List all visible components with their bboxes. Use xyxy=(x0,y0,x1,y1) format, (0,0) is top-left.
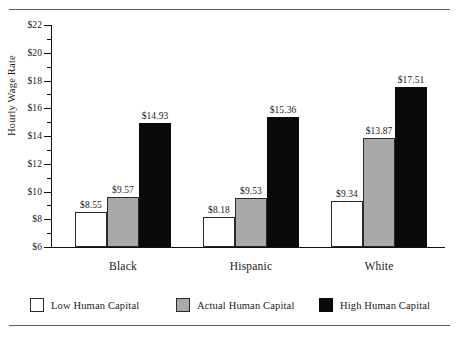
bar-value-label: $8.55 xyxy=(80,200,102,210)
bar-white-high: $17.51 xyxy=(395,87,427,247)
group-label-hispanic: Hispanic xyxy=(230,260,272,272)
legend-swatch-low xyxy=(30,298,44,312)
group-label-black: Black xyxy=(109,260,137,272)
y-tick-19 xyxy=(47,67,51,68)
legend-swatch-high xyxy=(319,298,333,312)
y-tick-16 xyxy=(44,108,51,109)
y-tick-21 xyxy=(47,39,51,40)
y-tick-label-22: $22 xyxy=(27,20,42,30)
legend-item-high[interactable]: High Human Capital xyxy=(319,298,430,312)
bar-value-label: $8.18 xyxy=(208,205,230,215)
y-tick-8 xyxy=(44,219,51,220)
y-tick-label-6: $6 xyxy=(32,242,42,252)
x-axis-line xyxy=(51,247,445,248)
bar-value-label: $15.36 xyxy=(270,105,297,115)
y-tick-9 xyxy=(47,205,51,206)
y-tick-label-14: $14 xyxy=(27,131,42,141)
y-tick-11 xyxy=(47,178,51,179)
y-tick-15 xyxy=(47,122,51,123)
group-label-white: White xyxy=(364,260,393,272)
y-tick-13 xyxy=(47,150,51,151)
bar-value-label: $9.53 xyxy=(240,186,262,196)
bar-hispanic-low: $8.18 xyxy=(203,217,235,247)
bar-black-low: $8.55 xyxy=(75,212,107,247)
bar-value-label: $13.87 xyxy=(366,126,393,136)
y-axis-line xyxy=(51,25,52,248)
y-tick-label-20: $20 xyxy=(27,48,42,58)
bar-chart-figure: $22$20$18$16$14$12$10$8$6 $8.55$9.57$14.… xyxy=(0,0,459,338)
y-tick-label-16: $16 xyxy=(27,103,42,113)
y-tick-20 xyxy=(44,53,51,54)
y-tick-7 xyxy=(47,233,51,234)
legend-item-low[interactable]: Low Human Capital xyxy=(30,298,139,312)
y-tick-label-8: $8 xyxy=(32,214,42,224)
y-tick-10 xyxy=(44,192,51,193)
legend-item-act[interactable]: Actual Human Capital xyxy=(176,298,294,312)
legend-label: High Human Capital xyxy=(340,300,430,311)
bar-value-label: $17.51 xyxy=(398,75,425,85)
bottom-divider-rule xyxy=(9,325,450,326)
bar-white-low: $9.34 xyxy=(331,201,363,247)
y-tick-14 xyxy=(44,136,51,137)
y-tick-6 xyxy=(44,247,51,248)
bar-black-act: $9.57 xyxy=(107,197,139,247)
bar-hispanic-high: $15.36 xyxy=(267,117,299,247)
legend-label: Actual Human Capital xyxy=(197,300,294,311)
y-tick-label-12: $12 xyxy=(27,159,42,169)
y-axis-title: Hourly Wage Rate xyxy=(6,55,17,136)
bar-black-high: $14.93 xyxy=(139,123,171,247)
bar-white-act: $13.87 xyxy=(363,138,395,247)
y-tick-label-18: $18 xyxy=(27,76,42,86)
y-tick-18 xyxy=(44,81,51,82)
y-tick-17 xyxy=(47,94,51,95)
bar-value-label: $9.57 xyxy=(112,185,134,195)
y-tick-12 xyxy=(44,164,51,165)
legend-label: Low Human Capital xyxy=(51,300,139,311)
plot-area: $22$20$18$16$14$12$10$8$6 $8.55$9.57$14.… xyxy=(51,25,445,247)
y-tick-label-10: $10 xyxy=(27,187,42,197)
top-divider-rule xyxy=(9,9,450,10)
y-tick-22 xyxy=(44,25,51,26)
bar-hispanic-act: $9.53 xyxy=(235,198,267,247)
legend-swatch-act xyxy=(176,298,190,312)
bar-value-label: $14.93 xyxy=(142,111,169,121)
chart-legend: Low Human CapitalActual Human CapitalHig… xyxy=(0,298,459,318)
bar-value-label: $9.34 xyxy=(336,189,358,199)
